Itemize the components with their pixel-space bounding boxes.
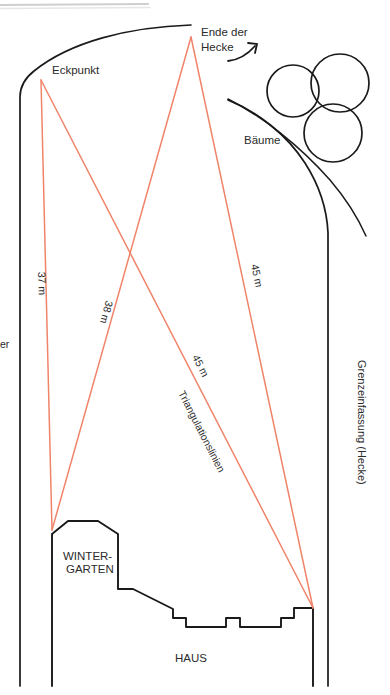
survey-sketch-canvas: Eckpunkt Ende der Hecke Bäume Grenzeinfa… — [0, 0, 390, 695]
annotation-triangulationslinien: Triangulationslinien — [176, 388, 228, 474]
measurement-label-37m: 37 m — [36, 272, 49, 296]
tree-circle-lower — [304, 104, 362, 162]
trees-group — [267, 54, 369, 162]
boundary-right-curve — [228, 100, 328, 686]
boundary-left-and-top-arc — [20, 25, 191, 686]
label-baeume: Bäume — [244, 134, 280, 146]
triangulation-line-45m-diagonal — [41, 80, 313, 608]
tree-circle-left — [267, 65, 319, 117]
label-left-edge-clipped: er — [0, 338, 10, 350]
label-wintergarten-line2: GARTEN — [66, 563, 114, 575]
label-grenzeinfassung: Grenzeinfassung (Hecke) — [356, 360, 368, 485]
tree-circle-top — [311, 54, 369, 112]
measurement-label-45m-right: 45 m — [249, 263, 266, 289]
page-top-rule — [0, 4, 150, 9]
property-boundary-group — [13, 25, 328, 686]
label-haus: HAUS — [175, 652, 207, 664]
hedge-line-through-trees — [228, 99, 366, 236]
triangulation-line-45m-right — [191, 37, 313, 608]
label-ende-der-hecke-line1: Ende der — [201, 26, 248, 38]
survey-sketch-page: Eckpunkt Ende der Hecke Bäume Grenzeinfa… — [0, 0, 390, 695]
triangulation-line-37m — [41, 80, 52, 530]
triangulation-line-38m — [52, 37, 191, 530]
triangulation-lines-group — [41, 37, 313, 608]
label-ende-der-hecke-line2: Hecke — [201, 41, 234, 53]
label-eckpunkt: Eckpunkt — [52, 64, 100, 76]
label-wintergarten-line1: WINTER- — [63, 550, 112, 562]
measurement-label-38m: 38 m — [98, 299, 116, 325]
